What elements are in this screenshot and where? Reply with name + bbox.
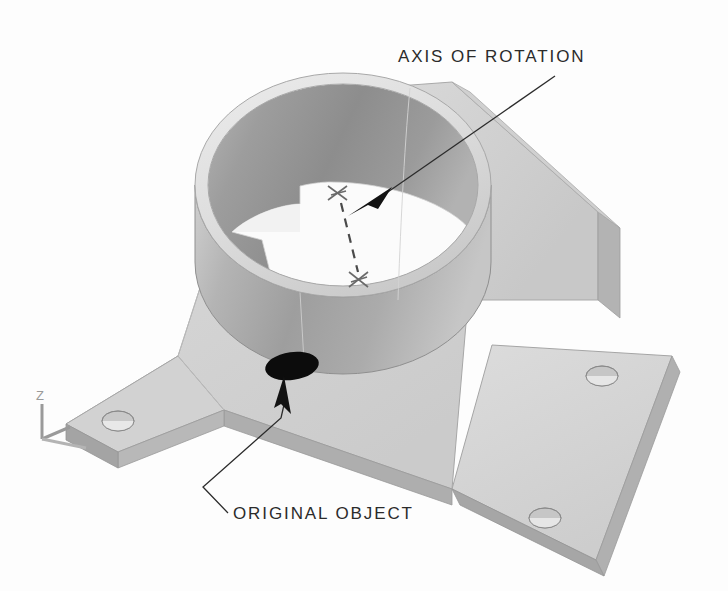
base-left-hole (102, 411, 134, 431)
cad-illustration-canvas: AXIS OF ROTATION ORIGINAL OBJECT Z (0, 0, 728, 591)
original-object-label: ORIGINAL OBJECT (233, 504, 414, 523)
axis-z-label: Z (36, 388, 44, 403)
flange-upper-right-hole (586, 366, 618, 386)
axis-of-rotation-label: AXIS OF ROTATION (398, 47, 586, 66)
flange-lower-right-hole (529, 508, 561, 528)
